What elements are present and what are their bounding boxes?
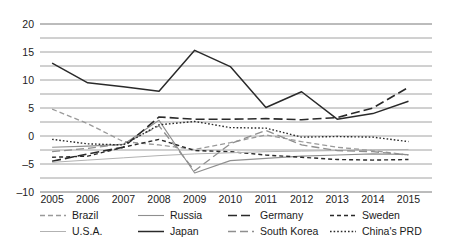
x-axis-tick-label: 2011 [255, 193, 278, 205]
chart-container: –10–505101520 20052006200720082009201020… [0, 0, 450, 249]
y-axis-tick-label: 20 [22, 18, 34, 30]
legend-label-china-s-prd: China's PRD [362, 225, 422, 237]
legend-label-u-s-a: U.S.A. [72, 225, 102, 237]
legend-label-brazil: Brazil [72, 209, 98, 221]
line-chart: –10–505101520 20052006200720082009201020… [0, 0, 450, 249]
x-axis-tick-label: 2010 [219, 193, 243, 205]
y-axis-tick-label: 5 [28, 102, 34, 114]
x-axis-tick-label: 2008 [147, 193, 171, 205]
y-axis-tick-label: 15 [22, 46, 34, 58]
legend-label-sweden: Sweden [362, 209, 400, 221]
x-axis-tick-label: 2014 [361, 193, 385, 205]
y-axis-tick-label: 10 [22, 74, 34, 86]
y-axis-tick-label: –5 [22, 158, 34, 170]
y-axis-tick-labels: –10–505101520 [16, 18, 34, 198]
x-axis-tick-label: 2012 [290, 193, 314, 205]
x-axis-tick-label: 2009 [183, 193, 207, 205]
series-line-japan [52, 50, 408, 119]
x-axis-tick-label: 2015 [397, 193, 421, 205]
x-axis-tick-labels: 2005200620072008200920102011201220132014… [40, 193, 420, 205]
gridlines [40, 24, 432, 192]
y-axis-tick-label: –10 [16, 186, 34, 198]
x-axis-tick-label: 2006 [76, 193, 100, 205]
chart-legend: BrazilRussiaGermanySwedenU.S.A.JapanSout… [40, 209, 422, 237]
legend-label-south-korea: South Korea [260, 225, 319, 237]
data-series-group [52, 50, 408, 173]
x-axis-tick-label: 2005 [40, 193, 64, 205]
legend-label-germany: Germany [260, 209, 304, 221]
y-axis-tick-label: 0 [28, 130, 34, 142]
x-axis-tick-label: 2007 [112, 193, 136, 205]
x-axis-tick-label: 2013 [326, 193, 350, 205]
legend-label-japan: Japan [170, 225, 199, 237]
legend-label-russia: Russia [170, 209, 202, 221]
